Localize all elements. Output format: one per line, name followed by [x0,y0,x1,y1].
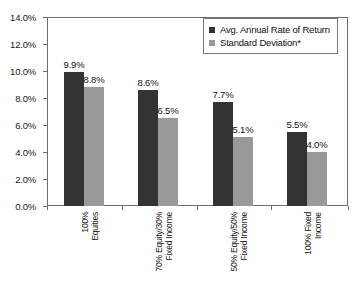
bar [287,132,307,206]
bar-value-label: 4.0% [307,139,328,150]
legend-item-standard-deviation: Standard Deviation* [209,36,330,49]
bar [158,118,178,206]
legend-item-avg-annual-rate-of-return: Avg. Annual Rate of Return [209,23,330,36]
bar-value-label: 6.5% [158,105,179,116]
chart-legend: Avg. Annual Rate of Return Standard Devi… [203,18,338,54]
legend-swatch-icon-series-1 [209,40,215,46]
bar-chart: 0.0%2.0%4.0%6.0%8.0%10.0%12.0%14.0% 9.9%… [0,0,362,297]
bar [307,152,327,206]
bar-value-label: 7.7% [213,89,234,100]
x-category-label: 100% FixedIncome [303,212,323,255]
x-category-label: 50% Equity/50%Fixed Income [229,212,249,272]
x-category-label: 70% Equity/30%Fixed Income [154,212,174,272]
bar-value-label: 5.1% [233,124,254,135]
bar [213,102,233,206]
bar-value-label: 5.5% [287,119,308,130]
bar [233,137,253,206]
bar-value-label: 8.6% [138,77,159,88]
bar [84,87,104,206]
x-category-label: 100%Equities [80,212,100,241]
bar [138,90,158,206]
bar-value-label: 8.8% [84,74,105,85]
bar [64,72,84,206]
legend-swatch-icon-series-0 [209,27,215,33]
legend-label-series-0: Avg. Annual Rate of Return [220,24,330,35]
bar-value-label: 9.9% [64,59,85,70]
legend-label-series-1: Standard Deviation* [220,37,301,48]
